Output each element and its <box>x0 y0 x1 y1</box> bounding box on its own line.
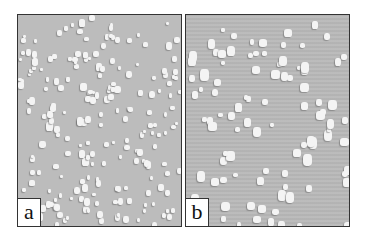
particle <box>140 132 144 138</box>
particle <box>127 198 132 204</box>
particle <box>53 164 58 169</box>
particle <box>158 89 161 93</box>
particle <box>64 26 68 30</box>
particle <box>218 50 226 58</box>
particle <box>128 107 133 112</box>
particle <box>127 38 132 43</box>
panel-label-b: b <box>186 198 209 226</box>
particle <box>70 197 73 200</box>
particle <box>37 170 41 175</box>
particle <box>46 77 49 81</box>
particle <box>171 208 176 213</box>
particle <box>123 216 129 223</box>
particle <box>250 39 255 45</box>
particle <box>52 54 56 59</box>
particle <box>174 37 180 43</box>
particle <box>54 198 57 202</box>
particle <box>143 42 148 47</box>
particle <box>88 57 91 60</box>
particle <box>286 192 295 203</box>
particle <box>146 190 151 197</box>
particle <box>46 201 51 208</box>
particle <box>109 25 113 31</box>
particle <box>147 110 152 115</box>
particle <box>79 150 85 158</box>
particle <box>158 184 164 192</box>
particle <box>21 51 25 56</box>
particle <box>95 201 100 206</box>
particle <box>99 218 104 225</box>
particle <box>153 123 157 127</box>
particle <box>26 49 31 56</box>
particle <box>126 71 132 78</box>
particle <box>32 66 36 70</box>
particle <box>74 187 80 194</box>
particle <box>19 58 22 61</box>
particle <box>162 213 166 218</box>
particle <box>152 76 156 80</box>
particle <box>227 46 236 56</box>
particle <box>281 42 287 48</box>
particle <box>99 123 103 127</box>
particle <box>110 58 116 64</box>
particle <box>262 99 268 106</box>
particle <box>214 79 222 86</box>
particle <box>262 51 267 56</box>
particle <box>86 141 90 145</box>
particle <box>118 198 123 205</box>
particle <box>278 190 286 201</box>
particle <box>92 193 96 197</box>
particle <box>248 53 253 59</box>
particle <box>282 170 288 177</box>
particle <box>29 97 35 105</box>
particle <box>253 127 262 137</box>
particle <box>84 198 90 207</box>
particle <box>208 39 215 49</box>
particle <box>257 177 264 185</box>
particle <box>27 108 31 114</box>
particle <box>316 99 322 106</box>
particle <box>99 112 103 118</box>
particle <box>57 30 63 36</box>
particle <box>89 15 95 21</box>
particle <box>56 133 59 136</box>
particle <box>165 171 171 176</box>
particle <box>93 51 99 57</box>
particle <box>54 126 60 133</box>
particle <box>143 130 146 134</box>
particle <box>113 200 118 205</box>
particle <box>157 133 161 137</box>
particle <box>170 106 175 110</box>
particle <box>71 23 74 27</box>
particle <box>63 111 66 115</box>
particle <box>171 125 176 130</box>
particle <box>58 85 64 91</box>
particle <box>96 180 101 187</box>
particle <box>55 222 60 227</box>
particle <box>169 93 173 97</box>
particle <box>284 29 292 37</box>
particle <box>172 56 177 62</box>
particle <box>177 168 182 174</box>
particle <box>138 90 142 96</box>
particle <box>278 221 285 227</box>
particle <box>192 91 199 99</box>
particle <box>54 204 60 210</box>
particle <box>220 177 227 183</box>
particle <box>301 142 307 149</box>
particle <box>335 58 342 67</box>
particle <box>112 141 115 144</box>
particle <box>34 39 38 43</box>
particle <box>200 69 208 81</box>
particle <box>327 119 335 129</box>
particle <box>74 61 77 64</box>
particle <box>312 21 318 29</box>
particle <box>166 42 172 50</box>
particle <box>281 72 289 82</box>
particle <box>87 208 91 213</box>
particle <box>188 57 196 66</box>
particle <box>237 222 242 227</box>
particle <box>47 111 53 118</box>
particle <box>85 116 91 123</box>
particle <box>221 202 230 212</box>
